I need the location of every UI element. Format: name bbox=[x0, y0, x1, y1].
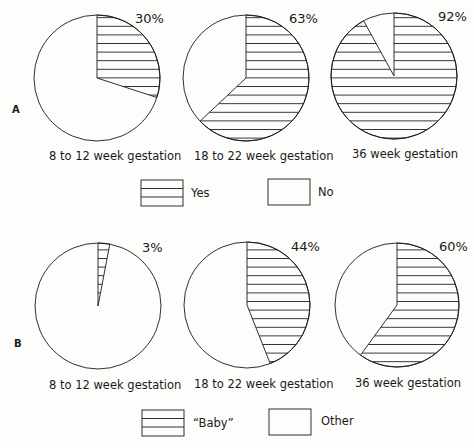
pie-b-1 bbox=[35, 243, 161, 369]
pie-b-2 bbox=[184, 242, 310, 368]
pie-a-2-caption: 18 to 22 week gestation bbox=[194, 149, 334, 163]
pie-a-1-caption: 8 to 12 week gestation bbox=[49, 149, 181, 163]
pie-a-3 bbox=[331, 13, 457, 139]
legend-other-label: Other bbox=[321, 414, 354, 428]
pie-a-3-caption: 36 week gestation bbox=[352, 147, 458, 161]
legend-yes-label: Yes bbox=[190, 186, 210, 200]
pie-b-2-percent: 44% bbox=[291, 239, 320, 254]
hatched-slice bbox=[331, 13, 457, 139]
legend-a: Yes No bbox=[141, 179, 334, 206]
legend-b: “Baby” Other bbox=[142, 409, 354, 436]
pie-b-1-caption: 8 to 12 week gestation bbox=[49, 378, 181, 392]
pie-a-2 bbox=[183, 15, 309, 141]
pie-a-1-percent: 30% bbox=[135, 11, 164, 26]
legend-hatched-swatch bbox=[142, 410, 184, 436]
pie-a-1 bbox=[34, 15, 160, 141]
panel-a: A 30% 8 to 12 week gestation 63% 18 to 2… bbox=[12, 9, 467, 206]
pie-b-2-caption: 18 to 22 week gestation bbox=[194, 377, 334, 391]
legend-blank-swatch bbox=[268, 179, 310, 205]
legend-hatched-swatch bbox=[141, 180, 183, 206]
pie-b-1-percent: 3% bbox=[142, 240, 163, 255]
panel-b: B 3% 8 to 12 week gestation 44% 18 to 22… bbox=[14, 239, 468, 436]
legend-baby-label: “Baby” bbox=[193, 416, 234, 430]
panel-a-label: A bbox=[12, 104, 20, 115]
panel-b-label: B bbox=[14, 338, 22, 349]
pie-chart-figure: A 30% 8 to 12 week gestation 63% 18 to 2… bbox=[0, 0, 474, 448]
pie-b-3-percent: 60% bbox=[439, 239, 468, 254]
pie-a-3-percent: 92% bbox=[438, 9, 467, 24]
legend-blank-swatch bbox=[269, 409, 311, 435]
pie-a-2-percent: 63% bbox=[289, 11, 318, 26]
legend-no-label: No bbox=[318, 185, 334, 199]
pie-b-3 bbox=[335, 243, 459, 367]
pie-b-3-caption: 36 week gestation bbox=[355, 376, 461, 390]
